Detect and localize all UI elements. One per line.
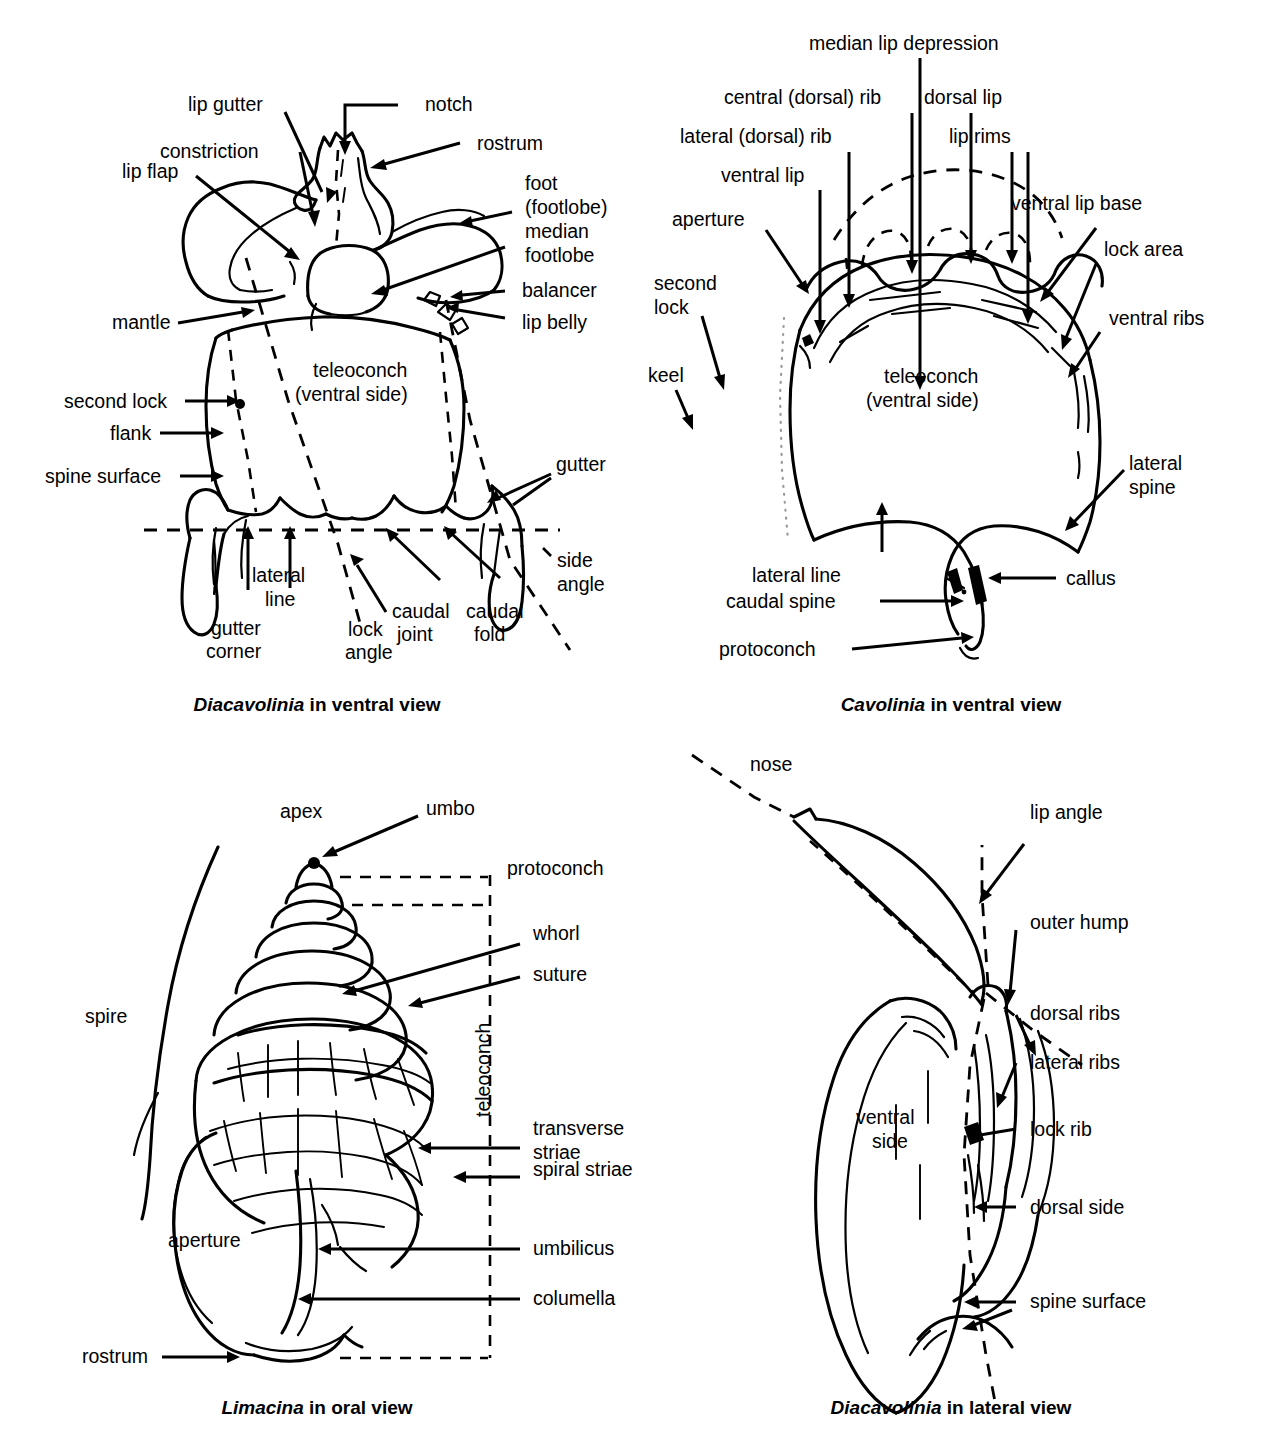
label-lock-rib: lock rib xyxy=(1030,1118,1092,1140)
shell-outline xyxy=(134,847,490,1361)
label-lateral: lateral xyxy=(252,564,305,586)
label-gutter-corner-2: corner xyxy=(206,640,262,662)
label-lip-flap: lip flap xyxy=(122,160,179,182)
caption-diacavolinia-lateral: Diacavolinia in lateral view xyxy=(634,1397,1268,1419)
label-rostrum: rostrum xyxy=(477,132,543,154)
label-flank: flank xyxy=(110,422,151,444)
label-teleoconch: teleoconch xyxy=(884,365,978,387)
label-lateral: lateral xyxy=(1129,452,1182,474)
label-line: line xyxy=(265,588,295,610)
labels: median lip depression central (dorsal) r… xyxy=(648,32,1205,660)
caption-rest: in oral view xyxy=(304,1397,413,1418)
label-lip-rims: lip rims xyxy=(949,125,1011,147)
labels: apex umbo protoconch whorl suture spire … xyxy=(82,797,633,1367)
cavolinia-ventral-drawing: median lip depression central (dorsal) r… xyxy=(634,0,1268,735)
label-lateral-spine: spine xyxy=(1129,476,1176,498)
label-umbo: umbo xyxy=(426,797,475,819)
label-ventral-side: (ventral side) xyxy=(866,389,979,411)
diacavolinia-lateral-drawing: nose lip angle outer hump dorsal ribs la… xyxy=(634,735,1268,1447)
label-rostrum: rostrum xyxy=(82,1345,148,1367)
label-outer-hump: outer hump xyxy=(1030,911,1129,933)
label-whorl: whorl xyxy=(532,922,580,944)
limacina-oral-drawing: apex umbo protoconch whorl suture spire … xyxy=(0,735,634,1447)
label-protoconch: protoconch xyxy=(719,638,815,660)
label-central-dorsal-rib: central (dorsal) rib xyxy=(724,86,881,108)
label-keel: keel xyxy=(648,364,684,386)
label-protoconch: protoconch xyxy=(507,857,603,879)
label-side: side xyxy=(872,1130,908,1152)
label-lateral-dorsal-rib: lateral (dorsal) rib xyxy=(680,125,832,147)
label-foot: foot xyxy=(525,172,558,194)
caption-genus: Diacavolinia xyxy=(193,694,304,715)
label-gutter: gutter xyxy=(556,453,606,475)
label-notch: notch xyxy=(425,93,473,115)
caption-limacina-oral: Limacina in oral view xyxy=(0,1397,634,1419)
diacavolinia-ventral-drawing: lip gutter notch constriction rostrum li… xyxy=(0,0,634,735)
caption-genus: Diacavolinia xyxy=(831,1397,942,1418)
caption-rest: in ventral view xyxy=(304,694,440,715)
label-lateral-line: lateral line xyxy=(752,564,841,586)
label-caudal-fold-2: fold xyxy=(474,623,505,645)
panel-diacavolinia-ventral: lip gutter notch constriction rostrum li… xyxy=(0,0,634,735)
label-umbilicus: umbilicus xyxy=(533,1237,615,1259)
label-lip-belly: lip belly xyxy=(522,311,587,333)
caption-genus: Limacina xyxy=(221,1397,303,1418)
label-teleoconch: teleoconch xyxy=(313,359,407,381)
panel-limacina-oral: apex umbo protoconch whorl suture spire … xyxy=(0,735,634,1447)
label-lock: lock xyxy=(654,296,689,318)
label-suture: suture xyxy=(533,963,587,985)
label-gutter-corner-1: gutter xyxy=(211,617,261,639)
label-callus: callus xyxy=(1066,567,1116,589)
label-aperture: aperture xyxy=(672,208,745,230)
shell-outline xyxy=(692,755,1082,1413)
label-ventral-lip: ventral lip xyxy=(721,164,805,186)
label-constriction: constriction xyxy=(160,140,259,162)
label-dorsal-side: dorsal side xyxy=(1030,1196,1124,1218)
label-spine-surface: spine surface xyxy=(1030,1290,1146,1312)
label-ventral-ribs: ventral ribs xyxy=(1109,307,1205,329)
label-nose: nose xyxy=(750,753,792,775)
caption-diacavolinia-ventral: Diacavolinia in ventral view xyxy=(0,694,634,716)
label-footlobe: footlobe xyxy=(525,244,594,266)
label-columella: columella xyxy=(533,1287,616,1309)
label-lip-gutter: lip gutter xyxy=(188,93,263,115)
caption-cavolinia-ventral: Cavolinia in ventral view xyxy=(634,694,1268,716)
label-second-lock: second lock xyxy=(64,390,167,412)
caption-genus: Cavolinia xyxy=(841,694,925,715)
label-lock: lock xyxy=(348,618,383,640)
label-ventral: ventral xyxy=(856,1106,915,1128)
label-side: side xyxy=(557,549,593,571)
label-lock-angle: angle xyxy=(345,641,393,663)
panel-diacavolinia-lateral: nose lip angle outer hump dorsal ribs la… xyxy=(634,735,1268,1447)
label-spiral-striae: spiral striae xyxy=(533,1158,633,1180)
figure-sheet: lip gutter notch constriction rostrum li… xyxy=(0,0,1268,1447)
label-lock-area: lock area xyxy=(1104,238,1183,260)
label-dorsal-lip: dorsal lip xyxy=(924,86,1002,108)
label-balancer: balancer xyxy=(522,279,597,301)
label-ventral-side: (ventral side) xyxy=(295,383,408,405)
label-lip-angle: lip angle xyxy=(1030,801,1103,823)
label-spire: spire xyxy=(85,1005,127,1027)
label-second: second xyxy=(654,272,717,294)
label-ventral-lip-base: ventral lip base xyxy=(1011,192,1142,214)
label-median-lip-depression: median lip depression xyxy=(809,32,999,54)
label-caudal-spine: caudal spine xyxy=(726,590,836,612)
panel-cavolinia-ventral: median lip depression central (dorsal) r… xyxy=(634,0,1268,735)
label-aperture: aperture xyxy=(168,1229,241,1251)
label-lateral-ribs: lateral ribs xyxy=(1030,1051,1120,1073)
label-caudal-fold-1: caudal xyxy=(466,600,523,622)
label-spine-surface: spine surface xyxy=(45,465,161,487)
caption-rest: in ventral view xyxy=(925,694,1061,715)
label-teleoconch: teleoconch xyxy=(472,1023,494,1117)
label-mantle: mantle xyxy=(112,311,171,333)
label-footlobe-paren: (footlobe) xyxy=(525,196,607,218)
label-dorsal-ribs: dorsal ribs xyxy=(1030,1002,1120,1024)
label-apex: apex xyxy=(280,800,323,822)
label-median: median xyxy=(525,220,589,242)
leader-lines xyxy=(962,844,1036,1331)
label-side-angle: angle xyxy=(557,573,605,595)
label-caudal-joint-2: joint xyxy=(396,623,433,645)
caption-rest: in lateral view xyxy=(941,1397,1071,1418)
label-caudal-joint-1: caudal xyxy=(392,600,449,622)
label-transverse: transverse xyxy=(533,1117,624,1139)
